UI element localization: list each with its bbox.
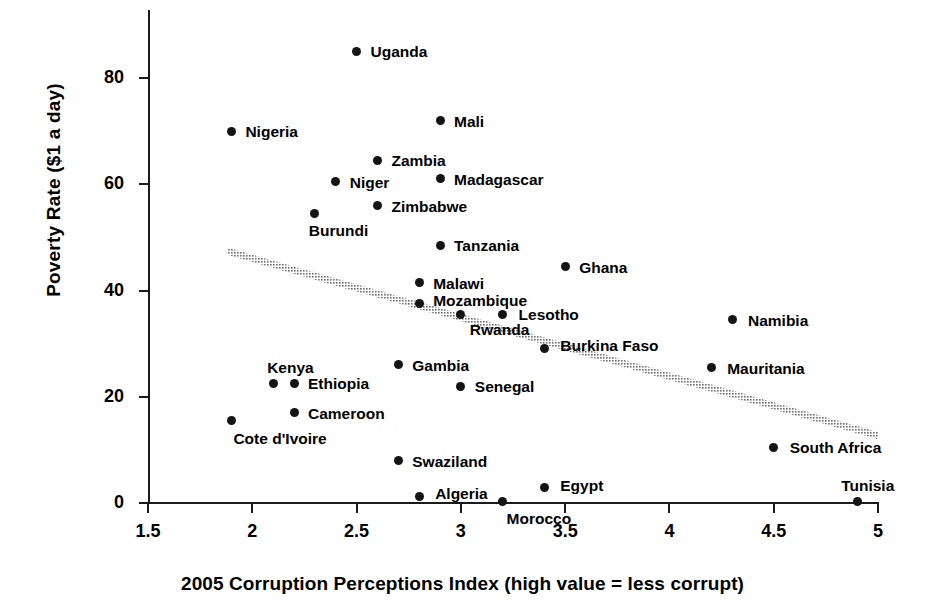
data-point-marker[interactable] (352, 47, 361, 56)
data-point-label: Rwanda (470, 322, 529, 338)
data-point-marker[interactable] (373, 201, 382, 210)
data-point-label: Ghana (579, 260, 627, 276)
data-point-label: Malawi (433, 276, 484, 292)
data-point-label: Madagascar (454, 172, 544, 188)
data-point-label: Ethiopia (308, 376, 369, 392)
data-point-label: Algeria (435, 486, 488, 502)
data-point-label: Zimbabwe (391, 199, 467, 215)
data-point-marker[interactable] (227, 416, 236, 425)
data-point-marker[interactable] (769, 443, 778, 452)
data-point-label: Senegal (475, 379, 534, 395)
data-point-label: Mauritania (727, 361, 805, 377)
data-point-marker[interactable] (561, 262, 570, 271)
data-point-marker[interactable] (540, 483, 549, 492)
data-point-marker[interactable] (290, 408, 299, 417)
data-point-label: Uganda (371, 44, 428, 60)
data-point-label: Lesotho (519, 307, 579, 323)
data-point-marker[interactable] (498, 497, 507, 506)
data-point-marker[interactable] (436, 116, 445, 125)
data-point-marker[interactable] (436, 241, 445, 250)
data-point-label: Gambia (412, 358, 469, 374)
data-point-marker[interactable] (415, 278, 424, 287)
data-point-marker[interactable] (373, 156, 382, 165)
data-point-marker[interactable] (394, 456, 403, 465)
data-point-label: Burundi (309, 223, 368, 239)
data-point-label: Morocco (507, 511, 572, 527)
data-point-marker[interactable] (415, 299, 424, 308)
data-point-marker[interactable] (707, 363, 716, 372)
data-point-label: South Africa (790, 440, 882, 456)
data-point-label: Cote d'Ivoire (233, 431, 326, 447)
data-point-label: Kenya (267, 360, 314, 376)
data-point-label: Mozambique (433, 293, 527, 309)
data-point-marker[interactable] (436, 174, 445, 183)
data-point-marker[interactable] (227, 127, 236, 136)
data-point-label: Tunisia (841, 478, 894, 494)
data-point-label: Zambia (391, 153, 445, 169)
data-point-marker[interactable] (456, 382, 465, 391)
data-point-label: Swaziland (412, 454, 487, 470)
data-point-marker[interactable] (290, 379, 299, 388)
data-point-marker[interactable] (415, 492, 424, 501)
data-point-label: Niger (350, 175, 390, 191)
data-point-marker[interactable] (498, 310, 507, 319)
data-point-label: Nigeria (245, 124, 298, 140)
data-point-label: Namibia (748, 313, 808, 329)
data-point-label: Burkina Faso (560, 338, 658, 354)
data-point-marker[interactable] (269, 379, 278, 388)
scatter-plot: Poverty Rate ($1 a day) 2005 Corruption … (0, 0, 925, 613)
data-point-marker[interactable] (728, 315, 737, 324)
data-point-label: Cameroon (308, 406, 385, 422)
data-point-label: Egypt (560, 478, 603, 494)
data-point-label: Tanzania (454, 238, 519, 254)
data-point-label: Mali (454, 114, 484, 130)
